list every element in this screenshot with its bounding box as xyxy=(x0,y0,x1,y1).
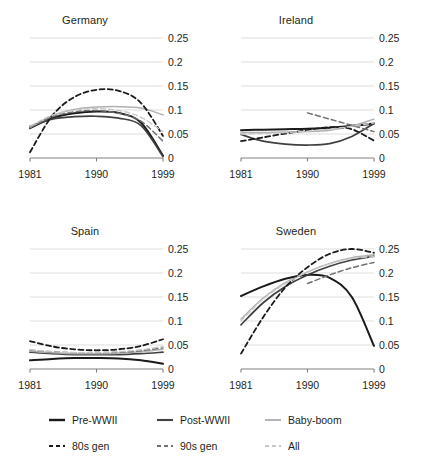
xtick-label: 1990 xyxy=(85,168,108,180)
xtick-label: 1981 xyxy=(229,379,252,391)
chart-svg-spain xyxy=(30,249,163,369)
xtick-label: 1999 xyxy=(362,168,385,180)
series-line-80s-gen xyxy=(30,89,163,152)
ytick-label: 0.1 xyxy=(168,104,183,116)
legend-label: Baby-boom xyxy=(288,414,342,426)
legend-label: All xyxy=(288,440,300,452)
legend-item-baby-boom[interactable]: Baby-boom xyxy=(265,408,373,432)
panel-title-sweden: Sweden xyxy=(211,225,381,237)
ytick-label: 0.15 xyxy=(168,291,188,303)
ytick-label: 0.1 xyxy=(379,104,394,116)
panel-title-ireland: Ireland xyxy=(211,14,381,26)
chart-svg-ireland xyxy=(241,38,374,158)
ytick-label: 0.2 xyxy=(379,56,394,68)
legend-label: 90s gen xyxy=(180,440,217,452)
legend-label: Post-WWII xyxy=(180,414,230,426)
ytick-label: 0.15 xyxy=(379,80,399,92)
legend-item-pre-wwii[interactable]: Pre-WWII xyxy=(49,408,157,432)
chart-svg-sweden xyxy=(241,249,374,369)
ytick-label: 0.2 xyxy=(379,267,394,279)
legend-swatch-icon xyxy=(265,441,281,451)
ytick-label: 0 xyxy=(168,152,174,164)
legend-item-90s-gen[interactable]: 90s gen xyxy=(157,434,265,458)
plot-area-sweden xyxy=(241,249,374,369)
xtick-label: 1990 xyxy=(296,379,319,391)
legend-swatch-icon xyxy=(49,415,65,425)
panel-sweden: Sweden 00.050.10.150.20.25198119901999 xyxy=(211,211,422,411)
ytick-label: 0.2 xyxy=(168,267,183,279)
ytick-label: 0.15 xyxy=(379,291,399,303)
xtick-label: 1999 xyxy=(151,379,174,391)
ytick-label: 0.05 xyxy=(168,128,188,140)
series-line-pre-wwii xyxy=(241,275,374,346)
legend-swatch-icon xyxy=(157,441,173,451)
ytick-label: 0 xyxy=(168,363,174,375)
small-multiples-figure: Germany 00.050.10.150.20.25198119901999 … xyxy=(0,0,422,469)
xtick-label: 1981 xyxy=(229,168,252,180)
legend-swatch-icon xyxy=(49,441,65,451)
legend-row: 80s gen90s genAll xyxy=(0,434,422,458)
ytick-label: 0.25 xyxy=(379,243,399,255)
plot-area-germany xyxy=(30,38,163,158)
ytick-label: 0 xyxy=(379,363,385,375)
series-line-pre-wwii xyxy=(30,358,163,364)
ytick-label: 0.15 xyxy=(168,80,188,92)
chart-svg-germany xyxy=(30,38,163,158)
legend-item-post-wwii[interactable]: Post-WWII xyxy=(157,408,265,432)
ytick-label: 0.05 xyxy=(379,339,399,351)
legend-label: 80s gen xyxy=(72,440,109,452)
panel-ireland: Ireland 00.050.10.150.20.25198119901999 xyxy=(211,0,422,200)
legend-swatch-icon xyxy=(265,415,281,425)
ytick-label: 0.25 xyxy=(168,243,188,255)
ytick-label: 0.05 xyxy=(379,128,399,140)
legend-item-80s-gen[interactable]: 80s gen xyxy=(49,434,157,458)
xtick-label: 1990 xyxy=(85,379,108,391)
plot-area-ireland xyxy=(241,38,374,158)
series-line-pre-wwii xyxy=(241,123,374,130)
xtick-label: 1999 xyxy=(151,168,174,180)
xtick-label: 1999 xyxy=(362,379,385,391)
legend-label: Pre-WWII xyxy=(72,414,118,426)
panel-title-germany: Germany xyxy=(0,14,170,26)
ytick-label: 0.25 xyxy=(379,32,399,44)
ytick-label: 0.2 xyxy=(168,56,183,68)
ytick-label: 0.1 xyxy=(379,315,394,327)
panel-title-spain: Spain xyxy=(0,225,170,237)
legend-row: Pre-WWIIPost-WWIIBaby-boom xyxy=(0,408,422,432)
panel-spain: Spain 00.050.10.150.20.25198119901999 xyxy=(0,211,211,411)
plot-area-spain xyxy=(30,249,163,369)
ytick-label: 0.25 xyxy=(168,32,188,44)
chart-legend: Pre-WWIIPost-WWIIBaby-boom80s gen90s gen… xyxy=(0,408,422,466)
xtick-label: 1981 xyxy=(18,379,41,391)
legend-swatch-icon xyxy=(157,415,173,425)
xtick-label: 1981 xyxy=(18,168,41,180)
legend-item-all[interactable]: All xyxy=(265,434,373,458)
ytick-label: 0 xyxy=(379,152,385,164)
xtick-label: 1990 xyxy=(296,168,319,180)
panel-germany: Germany 00.050.10.150.20.25198119901999 xyxy=(0,0,211,200)
ytick-label: 0.1 xyxy=(168,315,183,327)
ytick-label: 0.05 xyxy=(168,339,188,351)
